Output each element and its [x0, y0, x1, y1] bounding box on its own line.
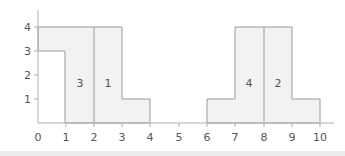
step-diagram: 1 2 3 4 0 1 2 3 4 5 6 7 8 9 10 3 1 4 2 — [0, 0, 345, 156]
region-label: 2 — [275, 77, 282, 90]
x-tick-label: 3 — [119, 131, 126, 144]
region-label: 3 — [77, 77, 84, 90]
x-tick-label: 1 — [63, 131, 70, 144]
x-tick-label: 8 — [261, 131, 268, 144]
y-tick-label: 3 — [24, 45, 31, 58]
x-tick-label: 5 — [176, 131, 183, 144]
x-tick-label: 7 — [232, 131, 239, 144]
y-tick-label: 1 — [24, 93, 31, 106]
x-tick-label: 9 — [289, 131, 296, 144]
region-label: 1 — [105, 77, 112, 90]
y-tick-label: 4 — [24, 21, 31, 34]
region-label: 4 — [246, 77, 253, 90]
x-tick-label: 6 — [204, 131, 211, 144]
bottom-divider — [0, 151, 345, 156]
x-ticks — [66, 123, 320, 127]
x-tick-label: 0 — [35, 131, 42, 144]
x-tick-label: 10 — [313, 131, 327, 144]
x-tick-label: 4 — [147, 131, 154, 144]
y-tick-label: 2 — [24, 69, 31, 82]
y-ticks — [34, 27, 38, 99]
x-tick-label: 2 — [91, 131, 98, 144]
